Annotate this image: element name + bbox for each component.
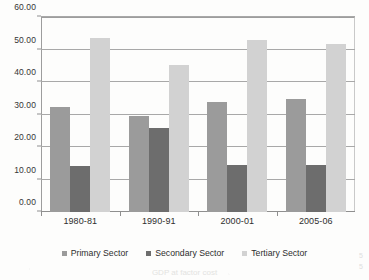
y-tick-label: 30.00 [14, 100, 41, 110]
bar-secondary-sector[interactable] [149, 128, 169, 212]
scan-caption-ghost: GDP at factor cost [0, 268, 369, 277]
y-tick-label: 0.00 [19, 197, 41, 207]
y-tick-label: 60.00 [14, 2, 41, 12]
bar-tertiary-sector[interactable] [169, 65, 189, 212]
bar-secondary-sector[interactable] [306, 165, 326, 212]
bar-primary-sector[interactable] [50, 107, 70, 212]
bar-primary-sector[interactable] [207, 102, 227, 212]
x-tick-label: 1990-91 [120, 216, 199, 226]
x-tick-label: 2000-01 [198, 216, 277, 226]
bar-tertiary-sector[interactable] [247, 40, 267, 212]
bar-group [198, 17, 277, 212]
bar-secondary-sector[interactable] [70, 166, 90, 212]
x-tick-mark [198, 212, 199, 216]
legend-swatch-icon [62, 251, 67, 256]
chart-legend: Primary SectorSecondary SectorTertiary S… [0, 248, 369, 258]
x-tick-mark [277, 212, 278, 216]
bar-group [120, 17, 199, 212]
bar-primary-sector[interactable] [129, 116, 149, 212]
legend-item[interactable]: Tertiary Sector [242, 248, 307, 258]
bar-tertiary-sector[interactable] [90, 38, 110, 212]
x-axis-labels: 1980-811990-912000-012005-06 [41, 216, 355, 226]
plot-area: 0.0010.0020.0030.0040.0050.0060.00 [41, 17, 355, 212]
bar-group [277, 17, 356, 212]
legend-item[interactable]: Secondary Sector [146, 248, 224, 258]
scan-edge-marks: 55 [359, 250, 363, 272]
bar-group [41, 17, 120, 212]
legend-swatch-icon [242, 251, 247, 256]
legend-label: Primary Sector [71, 248, 128, 258]
bar-tertiary-sector[interactable] [326, 44, 346, 212]
y-tick-label: 20.00 [14, 132, 41, 142]
bar-secondary-sector[interactable] [227, 165, 247, 212]
legend-label: Secondary Sector [155, 248, 224, 258]
bar-groups [41, 17, 355, 212]
bar-primary-sector[interactable] [286, 99, 306, 212]
x-tick-label: 2005-06 [277, 216, 356, 226]
legend-item[interactable]: Primary Sector [62, 248, 128, 258]
y-tick-label: 50.00 [14, 35, 41, 45]
x-tick-label: 1980-81 [41, 216, 120, 226]
y-tick-label: 40.00 [14, 67, 41, 77]
x-tick-mark [120, 212, 121, 216]
legend-swatch-icon [146, 251, 151, 256]
x-tick-mark [41, 212, 42, 216]
legend-label: Tertiary Sector [251, 248, 307, 258]
bar-chart: 0.0010.0020.0030.0040.0050.0060.00 1980-… [0, 0, 369, 280]
y-tick-label: 10.00 [14, 165, 41, 175]
